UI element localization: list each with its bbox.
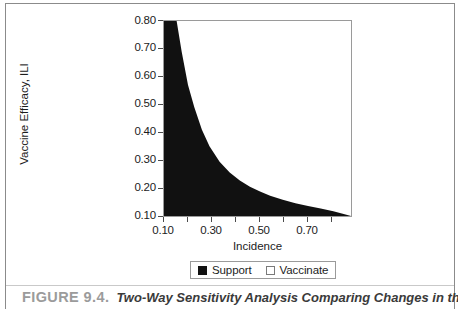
threshold-region-plot xyxy=(164,21,351,216)
y-tick-label-0.70: 0.70 xyxy=(114,41,156,53)
figure-plot-area: 0.80 0.70 0.60 0.50 0.40 0.30 0.20 0.10 … xyxy=(0,0,466,285)
x-tick-mark-0.10 xyxy=(163,217,164,222)
x-tick-label-0.50: 0.50 xyxy=(239,224,279,236)
y-tick-label-0.10: 0.10 xyxy=(114,209,156,221)
y-tick-label-0.40: 0.40 xyxy=(114,125,156,137)
legend-label-support: Support xyxy=(212,264,252,276)
figure-number: FIGURE 9.4. xyxy=(22,289,109,305)
x-tick-label-0.30: 0.30 xyxy=(191,224,231,236)
chart-legend: Support Vaccinate xyxy=(190,261,336,279)
plot-frame xyxy=(163,20,352,217)
legend-swatch-filled-icon xyxy=(198,266,207,275)
legend-label-vaccinate: Vaccinate xyxy=(280,264,329,276)
x-tick-mark-0.50 xyxy=(259,217,260,222)
figure-caption-text: Two-Way Sensitivity Analysis Comparing C… xyxy=(116,290,458,305)
y-tick-label-0.50: 0.50 xyxy=(114,97,156,109)
x-tick-mark-0.40 xyxy=(235,217,236,222)
x-axis-title: Incidence xyxy=(163,240,352,252)
x-tick-label-0.10: 0.10 xyxy=(143,224,183,236)
y-tick-label-0.20: 0.20 xyxy=(114,181,156,193)
y-axis-tick-labels: 0.80 0.70 0.60 0.50 0.40 0.30 0.20 0.10 xyxy=(112,0,156,240)
legend-swatch-empty-icon xyxy=(266,266,275,275)
x-tick-mark-0.80 xyxy=(331,217,332,222)
caption-divider xyxy=(6,285,454,286)
legend-entry-support: Support xyxy=(198,264,252,276)
figure-caption: FIGURE 9.4.Two-Way Sensitivity Analysis … xyxy=(22,288,458,307)
legend-entry-vaccinate: Vaccinate xyxy=(266,264,329,276)
y-tick-label-0.30: 0.30 xyxy=(114,153,156,165)
x-tick-mark-0.70 xyxy=(307,217,308,222)
y-axis-title: Vaccine Efficacy, ILI xyxy=(18,49,30,179)
x-tick-mark-0.20 xyxy=(187,217,188,222)
x-tick-mark-0.30 xyxy=(211,217,212,222)
y-tick-label-0.80: 0.80 xyxy=(114,14,156,26)
x-tick-label-0.70: 0.70 xyxy=(287,224,327,236)
y-tick-label-0.60: 0.60 xyxy=(114,69,156,81)
x-tick-mark-0.60 xyxy=(283,217,284,222)
